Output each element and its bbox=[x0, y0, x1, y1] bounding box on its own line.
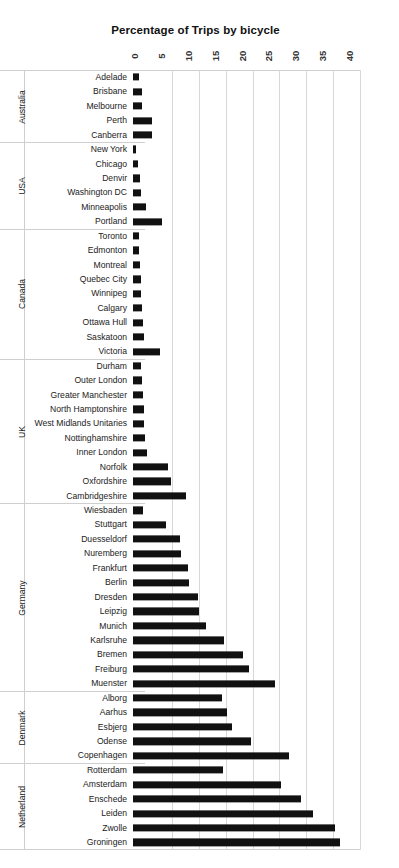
bar bbox=[133, 709, 227, 716]
bar bbox=[133, 781, 281, 788]
table-row: Cambridgeshire bbox=[0, 489, 399, 503]
table-row: Melbourne bbox=[0, 99, 399, 113]
bar-category-label: Nuremberg bbox=[0, 549, 133, 558]
bar bbox=[133, 175, 140, 182]
bar-cell bbox=[133, 70, 399, 84]
bar-category-label: Groningen bbox=[0, 838, 133, 847]
bar-cell bbox=[133, 561, 399, 575]
bar bbox=[133, 492, 186, 499]
bar-category-label: Minneapolis bbox=[0, 203, 133, 212]
table-row: Amsterdam bbox=[0, 777, 399, 791]
bar-cell bbox=[133, 676, 399, 690]
bar-cell bbox=[133, 214, 399, 228]
bar-cell bbox=[133, 113, 399, 127]
bar bbox=[133, 795, 301, 802]
bar-category-label: Amsterdam bbox=[0, 780, 133, 789]
bar-category-label: Portland bbox=[0, 217, 133, 226]
bar-category-label: Odense bbox=[0, 737, 133, 746]
bar-cell bbox=[133, 171, 399, 185]
bar-category-label: Melbourne bbox=[0, 102, 133, 111]
table-row: Rotterdam bbox=[0, 763, 399, 777]
bar-cell bbox=[133, 301, 399, 315]
x-tick-label-text: 20 bbox=[236, 51, 247, 62]
bar bbox=[133, 521, 166, 528]
bar bbox=[133, 362, 141, 369]
bar bbox=[133, 131, 152, 138]
bar bbox=[133, 160, 138, 167]
bar-category-label: Montreal bbox=[0, 261, 133, 270]
bar-category-label: Durham bbox=[0, 362, 133, 371]
bar-cell bbox=[133, 258, 399, 272]
bar bbox=[133, 435, 145, 442]
bar-category-label: Outer London bbox=[0, 376, 133, 385]
table-row: Toronto bbox=[0, 229, 399, 243]
bar bbox=[133, 406, 144, 413]
bar-cell bbox=[133, 648, 399, 662]
bar-cell bbox=[133, 272, 399, 286]
table-row: Esbjerg bbox=[0, 720, 399, 734]
bar bbox=[133, 218, 162, 225]
bar-cell bbox=[133, 359, 399, 373]
bar-cell bbox=[133, 489, 399, 503]
table-row: Durham bbox=[0, 359, 399, 373]
table-row: Montreal bbox=[0, 258, 399, 272]
table-row: Washington DC bbox=[0, 186, 399, 200]
x-tick-label-text: 10 bbox=[182, 51, 193, 62]
table-row: West Midlands Unitaries bbox=[0, 417, 399, 431]
bar-category-label: Duesseldorf bbox=[0, 535, 133, 544]
table-row: Denvir bbox=[0, 171, 399, 185]
bar-cell bbox=[133, 128, 399, 142]
bar-cell bbox=[133, 590, 399, 604]
table-row: Norfolk bbox=[0, 460, 399, 474]
bar bbox=[133, 550, 181, 557]
x-tick-label-text: 5 bbox=[155, 53, 166, 58]
bar-category-label: Cambridgeshire bbox=[0, 492, 133, 501]
bar-category-label: Frankfurt bbox=[0, 564, 133, 573]
bar-cell bbox=[133, 518, 399, 532]
bar bbox=[133, 377, 142, 384]
table-row: Winnipeg bbox=[0, 287, 399, 301]
table-row: Berlin bbox=[0, 575, 399, 589]
bar-category-label: Edmonton bbox=[0, 246, 133, 255]
table-row: Leiden bbox=[0, 806, 399, 820]
table-row: Victoria bbox=[0, 344, 399, 358]
bar-category-label: Greater Manchester bbox=[0, 391, 133, 400]
bar-category-label: Toronto bbox=[0, 232, 133, 241]
bar-cell bbox=[133, 99, 399, 113]
bar bbox=[133, 290, 141, 297]
bar-cell bbox=[133, 503, 399, 517]
x-tick-label-text: 25 bbox=[263, 51, 274, 62]
bar bbox=[133, 204, 146, 211]
bar-category-label: Canberra bbox=[0, 131, 133, 140]
bar-category-label: Brisbane bbox=[0, 87, 133, 96]
bar bbox=[133, 102, 142, 109]
bar-category-label: Zwolle bbox=[0, 824, 133, 833]
bar bbox=[133, 651, 243, 658]
bar bbox=[133, 810, 313, 817]
bar-category-label: Stuttgart bbox=[0, 520, 133, 529]
chart-title: Percentage of Trips by bicycle bbox=[0, 24, 391, 36]
table-row: Canberra bbox=[0, 128, 399, 142]
table-row: Portland bbox=[0, 214, 399, 228]
bar bbox=[133, 247, 139, 254]
bar-cell bbox=[133, 705, 399, 719]
table-row: Leipzig bbox=[0, 604, 399, 618]
bar-cell bbox=[133, 546, 399, 560]
bar bbox=[133, 117, 152, 124]
bar bbox=[133, 738, 251, 745]
bar-category-label: Inner London bbox=[0, 448, 133, 457]
bar-category-label: Calgary bbox=[0, 304, 133, 313]
bar-cell bbox=[133, 806, 399, 820]
bar bbox=[133, 88, 142, 95]
bar bbox=[133, 463, 168, 470]
bar bbox=[133, 232, 139, 239]
bar-cell bbox=[133, 402, 399, 416]
table-row: Quebec City bbox=[0, 272, 399, 286]
table-row: Zwolle bbox=[0, 821, 399, 835]
table-row: Ottawa Hull bbox=[0, 315, 399, 329]
bar bbox=[133, 593, 198, 600]
table-row: Saskatoon bbox=[0, 330, 399, 344]
bar bbox=[133, 189, 141, 196]
bar-category-label: Leiden bbox=[0, 809, 133, 818]
table-row: Chicago bbox=[0, 157, 399, 171]
